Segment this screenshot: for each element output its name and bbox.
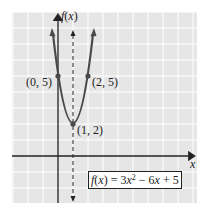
point-2-5 <box>85 73 90 78</box>
point-label-0-5: (0, 5) <box>26 75 52 89</box>
equation-label: f(x) = 3x2 − 6x + 5 <box>91 173 179 187</box>
point-label-2-5: (2, 5) <box>92 75 118 89</box>
point-0-5 <box>55 73 60 78</box>
vertex-label: (1, 2) <box>77 123 103 137</box>
x-axis-label: x <box>189 157 196 171</box>
y-axis-label: f(x) <box>61 9 78 23</box>
vertex-point <box>70 121 75 126</box>
parabola-chart: f(x) x (0, 5) (2, 5) (1, 2) f(x) = 3x2 −… <box>0 0 209 216</box>
